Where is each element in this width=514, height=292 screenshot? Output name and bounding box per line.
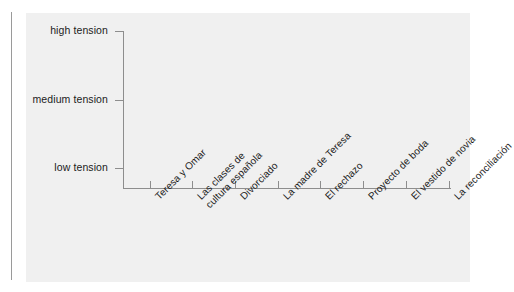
y-axis-tick [115,168,123,169]
x-axis-tick-label: El rechazo [323,160,366,203]
x-axis-tick [150,181,151,188]
page-margin-rule [11,12,12,280]
x-axis-tick [363,181,364,188]
y-axis-tick-label: high tension [50,24,108,36]
x-axis-tick [449,181,450,188]
tension-graph: high tensionmedium tensionlow tension Te… [26,13,470,282]
x-axis-tick [320,181,321,188]
x-axis-tick [406,181,407,188]
x-axis-tick-label: La madre de Teresa [281,130,354,203]
y-axis-tick [115,100,123,101]
y-axis-line [123,31,124,188]
y-axis-tick [115,31,123,32]
y-axis-tick-label: medium tension [32,93,108,105]
chart-panel: high tensionmedium tensionlow tension Te… [26,13,470,282]
x-axis-tick [192,181,193,188]
y-axis-tick-label: low tension [54,161,108,173]
x-axis-tick [278,181,279,188]
